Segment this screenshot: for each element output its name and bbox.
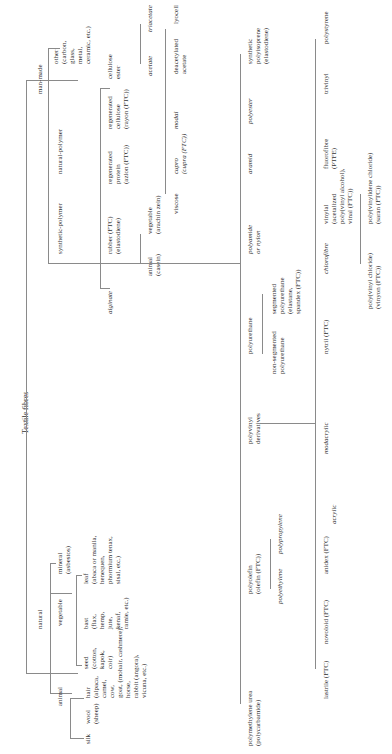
node-other: other (carbon, glass, metal, ceramic, et… <box>52 26 92 64</box>
connector-natural-polymer <box>100 89 101 289</box>
node-deacetylated-acetate: deacetylated acetate <box>172 39 188 74</box>
node-vegetable-zein: vegetable (arachin zein) <box>146 195 162 234</box>
node-polyvinylidene-chloride: poly(vinylidene chloride) (saran (FTC)) <box>366 153 382 224</box>
node-novoloid: novoloid (FTC) <box>322 600 330 644</box>
connector-alginate <box>100 288 110 289</box>
connector-cellulose <box>165 29 166 194</box>
connector-polyvinyl-down <box>260 423 315 424</box>
node-polystyrene: polystyrene <box>322 11 330 44</box>
node-polyvinyl-chloride: poly(vinyl chloride) (vinyon (FTC)) <box>366 253 382 309</box>
connector-synthetic <box>48 263 60 264</box>
node-viscose: viscose <box>172 193 180 214</box>
node-lyocell: lyocell <box>172 5 180 24</box>
connector-polyvinyl-bus-right <box>315 39 316 169</box>
node-acetate: acetate <box>146 56 154 76</box>
connector-protein <box>140 234 141 264</box>
node-polyester: polyester <box>246 98 254 124</box>
connector-manmade <box>48 49 49 264</box>
node-anidex: anidex (FTC) <box>322 536 330 574</box>
node-natural-polymer: natural-polymer <box>56 129 64 174</box>
node-vegetable: vegetable <box>56 599 64 626</box>
connector-polyvinyl-bus <box>315 169 316 669</box>
node-synthetic-polyisoprene: synthetic polyisoprene (elastodiene) <box>246 28 270 64</box>
node-chlorofibre: chlorofibre <box>322 243 330 274</box>
node-fluorofibre: fluorofibre (PTFE) <box>322 139 338 169</box>
connector-mineral <box>50 564 51 604</box>
connector-root-manmade <box>26 80 78 81</box>
connector-natural <box>50 594 51 694</box>
node-lastrile: lastrile (FTC) <box>322 661 330 699</box>
connector-ester <box>140 24 141 64</box>
node-man-made: man-made <box>36 64 44 94</box>
node-synthetic-polymer: synthetic-polymer <box>56 203 64 254</box>
connector-silk <box>70 738 84 739</box>
node-polyamide: polyamide or nylon <box>246 225 262 254</box>
node-modacrylic: modacrylic <box>322 423 330 455</box>
node-segmented-polyurethane: segmented polyurethane (elastane, spande… <box>270 269 302 314</box>
textile-fibres-tree: Textile fibres natural animal vegetable … <box>0 0 392 754</box>
node-cellulose-ester: cellulose ester <box>106 54 122 79</box>
connector-hair <box>70 698 84 699</box>
node-wool: wool (sheep) <box>84 703 100 724</box>
node-bast: bast (flax, hemp, jute, kenaf, ramie, et… <box>82 597 130 629</box>
diagram-frame: Textile fibres natural animal vegetable … <box>0 0 392 754</box>
node-polyurethane: polyurethane <box>246 317 254 354</box>
node-vinylal: vinylal (acetalized poly(vinyl alcohol),… <box>322 168 354 224</box>
node-polyvinyl-derivatives: polyvinyl derivatives <box>246 413 262 444</box>
node-leaf: leaf (abaca or manila, henequen, phormiu… <box>82 536 122 584</box>
node-animal-casein: animal (casein) <box>146 254 162 276</box>
node-cupro: cupro (cupra (FTC)) <box>172 134 188 174</box>
node-non-segmented-polyurethane: non-segmented polyurethane <box>270 331 286 374</box>
node-seed: seed (cotton, kapok, coir) <box>82 647 114 669</box>
node-silk: silk <box>84 734 92 744</box>
connector-synthetic-join <box>200 263 240 264</box>
node-polymethylene-urea: polymethylene urea (polycarbamide) <box>246 691 262 746</box>
node-regenerated-protein: regenerated protein (azlon (FTC)) <box>106 145 130 184</box>
node-polypropylene: polypropylene <box>276 514 284 554</box>
node-modal: modal <box>172 112 180 130</box>
node-triacetate: triacetate <box>146 5 154 32</box>
node-regenerated-cellulose: regenerated cellulose (rayon (FTC)) <box>106 89 130 129</box>
connector-root-natural <box>26 673 78 674</box>
connector-vegetable <box>76 576 77 666</box>
node-polyethylene: polyethylene <box>276 569 284 604</box>
connector-root <box>26 80 27 674</box>
node-mineral: mineral (asbestos) <box>56 546 72 574</box>
connector-animal <box>70 699 71 739</box>
connector-chlorofibre <box>360 194 361 264</box>
connector-polyurethane <box>262 294 263 354</box>
connector-synthetic-bus <box>240 54 241 704</box>
node-aramid: aramid <box>246 154 254 174</box>
node-alginate: alginate <box>106 291 114 314</box>
node-trivinyl: trivinyl <box>322 73 330 94</box>
connector-synthetic-down <box>60 263 200 264</box>
node-rubber: rubber (FTC) (elastodiene) <box>106 216 122 254</box>
connector-polyolefin <box>270 539 271 589</box>
node-natural: natural <box>36 610 44 629</box>
node-acrylic: acrylic <box>330 505 338 524</box>
node-polyolefin: polyolefin (olefin (FTC)) <box>246 554 262 594</box>
node-animal: animal <box>56 687 64 706</box>
connector-mineral-v <box>50 563 56 564</box>
node-nytril: nytril (FTC) <box>322 320 330 354</box>
connector-natural-vegetable <box>50 593 72 594</box>
